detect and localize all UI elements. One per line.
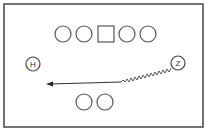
- play-diagram: H Z: [0, 0, 206, 130]
- player-z-label: Z: [176, 59, 181, 68]
- player-h-label: H: [30, 60, 36, 69]
